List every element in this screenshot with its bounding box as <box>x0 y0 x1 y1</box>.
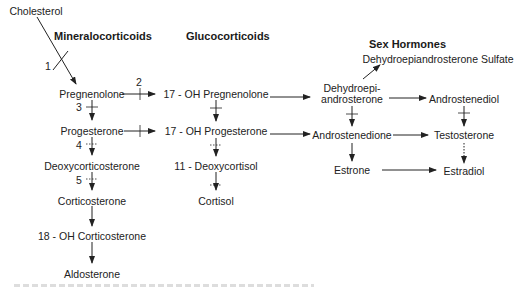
node-dhea-line2: androsterone <box>321 93 383 105</box>
header-glucocorticoids: Glucocorticoids <box>186 30 270 42</box>
node-cortisol: Cortisol <box>198 195 234 207</box>
node-cholesterol: Cholesterol <box>9 5 62 17</box>
node-18oh-corticosterone: 18 - OH Corticosterone <box>38 230 146 242</box>
node-dhea-sulfate: Dehydroepiandrosterone Sulfate <box>362 53 513 65</box>
header-mineralocorticoids: Mineralocorticoids <box>54 30 152 42</box>
node-androstenediol: Androstenediol <box>429 93 499 105</box>
arrow-cholesterol-pregnenolone <box>37 17 76 84</box>
node-testosterone: Testosterone <box>434 129 494 141</box>
enzyme-label-3: 3 <box>76 101 82 113</box>
node-17oh-pregnenolone: 17 - OH Pregnenolone <box>163 88 268 100</box>
node-17oh-progesterone: 17 - OH Progesterone <box>165 125 268 137</box>
node-11-deoxycortisol: 11 - Deoxycortisol <box>174 160 257 172</box>
enzyme-label-5: 5 <box>76 174 82 186</box>
enzyme-label-1: 1 <box>45 60 51 72</box>
node-corticosterone: Corticosterone <box>58 195 126 207</box>
node-deoxycorticosterone: Deoxycorticosterone <box>44 160 140 172</box>
node-progesterone: Progesterone <box>60 125 123 137</box>
node-estrone: Estrone <box>334 164 370 176</box>
node-pregnenolone: Pregnenolone <box>59 88 124 100</box>
node-estradiol: Estradiol <box>444 165 485 177</box>
enzyme-label-2: 2 <box>136 76 142 88</box>
enzyme-label-4: 4 <box>76 139 82 151</box>
node-androstenedione: Androstenedione <box>312 129 391 141</box>
header-sex-hormones: Sex Hormones <box>369 38 446 50</box>
node-aldosterone: Aldosterone <box>64 268 120 280</box>
cropped-caption-fragment <box>14 284 314 287</box>
